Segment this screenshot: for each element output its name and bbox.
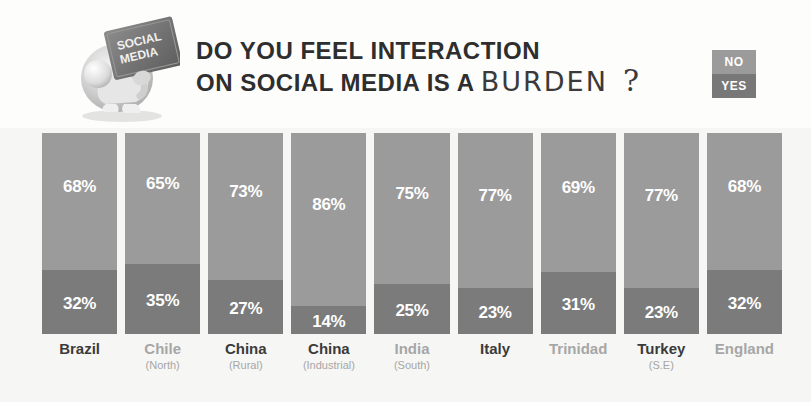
bar-value-label-no: 68% <box>63 177 96 197</box>
bar-column[interactable]: 75%25% <box>374 133 449 334</box>
category-name: Chile <box>125 340 200 357</box>
category-label: Trinidad <box>541 340 616 374</box>
page-title: DO YOU FEEL INTERACTION ON SOCIAL MEDIA … <box>196 36 696 98</box>
bar-value-label-yes: 31% <box>562 295 595 315</box>
bar-column[interactable]: 77%23% <box>458 133 533 334</box>
title-emphasis-burden: BURDEN <box>481 66 608 97</box>
category-label: Brazil <box>42 340 117 374</box>
bar-segment-no[interactable]: 73% <box>208 133 283 280</box>
title-question-mark: ? <box>615 63 640 98</box>
category-name: Italy <box>458 340 533 357</box>
bar-segment-no[interactable]: 77% <box>458 133 533 288</box>
category-name: China <box>291 340 366 357</box>
bar-value-label-no: 69% <box>562 178 595 198</box>
bar-column[interactable]: 73%27% <box>208 133 283 334</box>
bar-segment-yes[interactable]: 25% <box>374 284 449 334</box>
category-label: China(Rural) <box>208 340 283 374</box>
header: SOCIAL MEDIA DO YOU FEEL INTERACTION ON … <box>0 0 811 128</box>
bar-segment-yes[interactable]: 23% <box>458 288 533 334</box>
bar-value-label-no: 73% <box>229 182 262 202</box>
category-name: Trinidad <box>541 340 616 357</box>
bar-segment-no[interactable]: 68% <box>42 133 117 270</box>
bar-segment-no[interactable]: 86% <box>291 133 366 306</box>
bar-segment-no[interactable]: 69% <box>541 133 616 272</box>
bar-value-label-yes: 32% <box>63 294 96 314</box>
infographic-root: SOCIAL MEDIA DO YOU FEEL INTERACTION ON … <box>0 0 811 402</box>
bar-value-label-no: 86% <box>312 195 345 215</box>
category-sublabel: (S.E) <box>624 357 699 374</box>
bar-segment-no[interactable]: 77% <box>624 133 699 288</box>
legend: NO YES <box>712 50 756 98</box>
category-axis: BrazilChile(North)China(Rural)China(Indu… <box>42 340 782 374</box>
bar-segment-no[interactable]: 65% <box>125 133 200 264</box>
title-line-2-prefix: ON SOCIAL MEDIA IS A <box>196 69 474 96</box>
category-label: India(South) <box>374 340 449 374</box>
category-sublabel: (South) <box>374 357 449 374</box>
bar-segment-yes[interactable]: 23% <box>624 288 699 334</box>
bar-value-label-yes: 25% <box>395 301 428 321</box>
category-name: India <box>374 340 449 357</box>
bar-value-label-yes: 14% <box>312 312 345 332</box>
bar-column[interactable]: 68%32% <box>42 133 117 334</box>
category-label: Turkey(S.E) <box>624 340 699 374</box>
chart-panel: 68%32%65%35%73%27%86%14%75%25%77%23%69%3… <box>0 128 811 402</box>
category-label: England <box>707 340 782 374</box>
bar-value-label-no: 68% <box>728 177 761 197</box>
bar-value-label-yes: 27% <box>229 299 262 319</box>
bar-value-label-yes: 23% <box>645 303 678 323</box>
bar-segment-yes[interactable]: 32% <box>42 270 117 334</box>
bar-segment-yes[interactable]: 27% <box>208 280 283 334</box>
bar-column[interactable]: 77%23% <box>624 133 699 334</box>
bar-segment-no[interactable]: 68% <box>707 133 782 270</box>
title-line-2: ON SOCIAL MEDIA IS A BURDEN ? <box>196 66 696 98</box>
bar-column[interactable]: 65%35% <box>125 133 200 334</box>
bar-value-label-no: 65% <box>146 174 179 194</box>
bar-value-label-no: 75% <box>395 184 428 204</box>
bar-value-label-no: 77% <box>645 186 678 206</box>
legend-label-no: NO <box>725 55 744 69</box>
category-name: Brazil <box>42 340 117 357</box>
bar-value-label-yes: 23% <box>479 303 512 323</box>
bar-segment-yes[interactable]: 32% <box>707 270 782 334</box>
bar-column[interactable]: 68%32% <box>707 133 782 334</box>
mascot-icon: SOCIAL MEDIA <box>62 12 180 124</box>
legend-label-yes: YES <box>721 79 747 93</box>
category-label: Chile(North) <box>125 340 200 374</box>
category-name: Turkey <box>624 340 699 357</box>
category-label: China(Industrial) <box>291 340 366 374</box>
category-sublabel: (Industrial) <box>291 357 366 374</box>
category-name: England <box>707 340 782 357</box>
category-sublabel: (North) <box>125 357 200 374</box>
title-line-1: DO YOU FEEL INTERACTION <box>196 36 696 66</box>
legend-item-yes[interactable]: YES <box>712 74 756 98</box>
bar-value-label-yes: 35% <box>146 291 179 311</box>
category-label: Italy <box>458 340 533 374</box>
bar-segment-yes[interactable]: 31% <box>541 272 616 334</box>
legend-item-no[interactable]: NO <box>712 50 756 74</box>
bar-value-label-no: 77% <box>479 186 512 206</box>
category-sublabel: (Rural) <box>208 357 283 374</box>
bar-value-label-yes: 32% <box>728 294 761 314</box>
bar-column[interactable]: 69%31% <box>541 133 616 334</box>
social-media-burden-illustration: SOCIAL MEDIA <box>62 12 180 124</box>
bar-segment-no[interactable]: 75% <box>374 133 449 284</box>
bar-segment-yes[interactable]: 35% <box>125 264 200 334</box>
category-name: China <box>208 340 283 357</box>
stacked-bar-chart: 68%32%65%35%73%27%86%14%75%25%77%23%69%3… <box>42 133 782 334</box>
bar-segment-yes[interactable]: 14% <box>291 306 366 334</box>
bar-column[interactable]: 86%14% <box>291 133 366 334</box>
